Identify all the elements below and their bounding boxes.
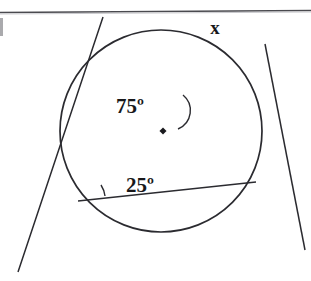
unknown-label-x: x (210, 17, 220, 38)
page-margin-smudge (0, 18, 3, 36)
angle-arc-75 (178, 95, 190, 129)
angle-label-25: 25º (126, 173, 154, 197)
secant-descending (265, 44, 305, 250)
angle-arc-25 (101, 185, 105, 196)
secant-ascending (18, 17, 103, 272)
center-dot (159, 127, 166, 134)
angle-label-75: 75º (116, 94, 144, 118)
geometry-figure: 75º 25º x (0, 0, 311, 281)
diagram-canvas: 75º 25º x (0, 0, 311, 281)
